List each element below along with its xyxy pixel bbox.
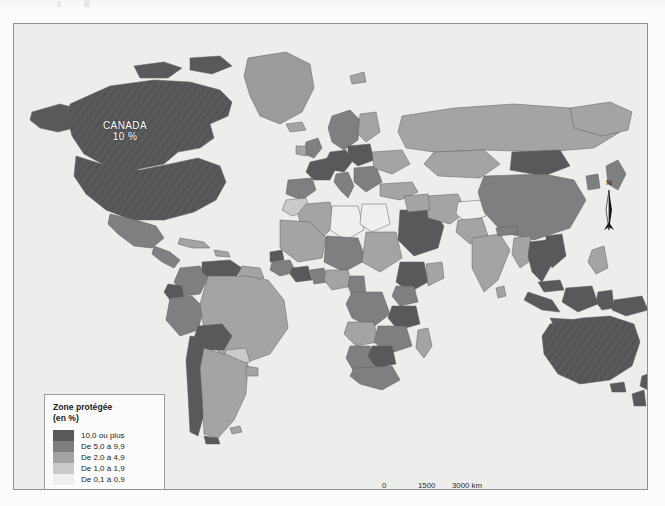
scale-label-mid: 1500 (418, 481, 435, 490)
legend-label-class-1: 10,0 ou plus (74, 431, 125, 440)
legend-label-class-5: De 0,1 à 0,9 (74, 475, 125, 484)
north-arrow: N (598, 179, 620, 235)
legend-row-class-4[interactable]: De 1,0 à 1,9 (53, 463, 157, 474)
legend-label-class-2: De 5,0 à 9,9 (74, 442, 125, 451)
legend-row-class-1[interactable]: 10,0 ou plus (53, 430, 157, 441)
scale-bar-labels: 0 1500 3000 km (382, 481, 486, 490)
scale-label-max: 3000 km (452, 481, 482, 490)
legend-label-class-3: De 2,0 à 4,9 (74, 453, 125, 462)
country-senegal (270, 250, 284, 262)
country-nepal-bhutan (496, 226, 518, 236)
legend-row-class-2[interactable]: De 5,0 à 9,9 (53, 441, 157, 452)
legend-title-line2: (en %) (53, 413, 157, 424)
legend-swatch-class-3 (53, 452, 74, 463)
scan-blip (57, 1, 61, 7)
scale-label-0: 0 (382, 481, 386, 490)
page-root: CANADA 10 % Zone protégée (en %) 10,0 ou… (0, 0, 665, 506)
legend-spacer (53, 485, 157, 490)
legend-title-line1: Zone protégée (53, 402, 157, 413)
scale-bar: 0 1500 3000 km (382, 481, 486, 490)
map-plate: CANADA 10 % Zone protégée (en %) 10,0 ou… (14, 24, 647, 489)
country-tasmania (610, 382, 626, 392)
legend-swatch-class-4 (53, 463, 74, 474)
country-uruguay (246, 366, 258, 376)
legend-swatch-class-1 (53, 430, 74, 441)
legend-title: Zone protégée (en %) (53, 402, 157, 425)
north-arrow-letter: N (598, 179, 620, 187)
legend-label-class-4: De 1,0 à 1,9 (74, 464, 125, 473)
scan-blip (84, 0, 90, 7)
legend-row-class-3[interactable]: De 2,0 à 4,9 (53, 452, 157, 463)
country-ireland (296, 146, 306, 156)
scan-artifact-strip (0, 0, 665, 10)
country-sri-lanka (496, 286, 506, 298)
country-iceland (286, 122, 306, 132)
legend-swatch-class-5 (53, 474, 74, 485)
country-iraq-syria (404, 194, 430, 212)
legend-swatch-class-2 (53, 441, 74, 452)
legend-row-class-5[interactable]: De 0,1 à 0,9 (53, 474, 157, 485)
map-frame: CANADA 10 % Zone protégée (en %) 10,0 ou… (13, 23, 648, 490)
compass-needle-icon (598, 189, 620, 231)
map-legend[interactable]: Zone protégée (en %) 10,0 ou plus De 5,0… (44, 394, 165, 490)
